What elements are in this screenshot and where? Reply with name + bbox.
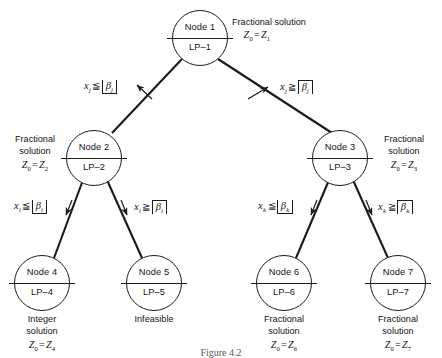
annotation-node-3-objective: Z0=Z3 [374, 158, 434, 174]
node-2-lp: LP–2 [67, 163, 121, 173]
annotation-node-6-line2: solution [254, 325, 314, 337]
floor-bracket: βk [277, 200, 293, 214]
z-rhs-subscript: 2 [45, 165, 49, 172]
node-6[interactable]: Node 6 LP–6 [256, 255, 312, 311]
edge-arrowhead-node3-node6 [311, 200, 317, 215]
beta-subscript: k [406, 207, 409, 214]
edge-label-node1-node3: xj≧βj [280, 80, 313, 94]
edge-node2-node5 [107, 180, 142, 258]
node-6-divider [251, 283, 317, 284]
annotation-node-1-objective: Z0=Z1 [232, 28, 306, 44]
floor-bracket: βj [102, 80, 117, 94]
beta-subscript: j [111, 86, 113, 93]
ceil-bracket: βi [152, 200, 167, 214]
node-3-divider [307, 158, 373, 159]
node-5-divider [121, 283, 187, 284]
annotation-node-5-line1: Infeasible [124, 313, 184, 325]
annotation-node-2-line2: solution [6, 145, 64, 157]
node-6-title: Node 6 [257, 268, 311, 278]
node-4[interactable]: Node 4 LP–4 [14, 255, 70, 311]
node-5[interactable]: Node 5 LP–5 [126, 255, 182, 311]
annotation-node-1-line1: Fractional solution [232, 16, 306, 28]
edge-label-node3-node7: xk≧βk [378, 200, 413, 214]
ceil-bracket: βk [397, 200, 413, 214]
node-3[interactable]: Node 3 LP–3 [312, 130, 368, 186]
node-2[interactable]: Node 2 LP–2 [66, 130, 122, 186]
annotation-node-7-line2: solution [368, 325, 428, 337]
annotation-node-3-line2: solution [374, 145, 434, 157]
annotation-node-7-line1: Fractional [368, 313, 428, 325]
node-7[interactable]: Node 7 LP–7 [370, 255, 426, 311]
node-7-lp: LP–7 [371, 288, 425, 298]
node-3-title: Node 3 [313, 143, 367, 153]
beta-subscript: i [161, 207, 163, 214]
beta-subscript: k [286, 206, 289, 213]
edge-label-node2-node5: xi≧βi [134, 200, 167, 214]
node-3-lp: LP–3 [313, 163, 367, 173]
relation-symbol: ≦ [266, 200, 277, 211]
node-2-title: Node 2 [67, 143, 121, 153]
annotation-node-4-line1: Integer [12, 313, 72, 325]
edge-node2-node4 [54, 180, 83, 258]
relation-symbol: ≦ [91, 80, 102, 91]
beta-subscript: i [41, 206, 43, 213]
node-4-lp: LP–4 [15, 288, 69, 298]
annotation-node-2-objective: Z0=Z2 [6, 158, 64, 174]
relation-symbol: ≦ [21, 200, 32, 211]
node-4-divider [9, 283, 75, 284]
relation-symbol: ≧ [141, 201, 152, 212]
annotation-node-6-line1: Fractional [254, 313, 314, 325]
edge-arrowhead-node2-node5 [121, 200, 127, 215]
edge-label-node1-node2: xj≦βj [84, 80, 117, 94]
node-4-title: Node 4 [15, 268, 69, 278]
edge-node1-node2 [112, 59, 182, 133]
relation-symbol: ≧ [287, 81, 298, 92]
annotation-node-2: Fractional solution Z0=Z2 [6, 133, 64, 173]
node-6-lp: LP–6 [257, 288, 311, 298]
figure-caption: Figure 4.2 [0, 347, 442, 358]
node-7-divider [365, 283, 431, 284]
floor-bracket: βi [32, 200, 47, 214]
z-rhs-subscript: 3 [414, 165, 418, 172]
z-rhs-subscript: 1 [267, 35, 271, 42]
edge-node3-node6 [296, 180, 329, 258]
edge-label-node2-node4: xi≦βi [14, 200, 47, 214]
node-2-divider [61, 158, 127, 159]
annotation-node-4-line2: solution [12, 325, 72, 337]
node-7-title: Node 7 [371, 268, 425, 278]
annotation-node-2-line1: Fractional [6, 133, 64, 145]
node-1-divider [167, 38, 233, 39]
annotation-node-1: Fractional solution Z0=Z1 [232, 16, 306, 44]
edge-arrowhead-node3-node7 [366, 200, 372, 215]
node-1[interactable]: Node 1 LP–1 [172, 10, 228, 66]
node-5-title: Node 5 [127, 268, 181, 278]
annotation-node-3: Fractional solution Z0=Z3 [374, 133, 434, 173]
edge-arrowhead-node1-node3 [248, 87, 268, 99]
node-5-lp: LP–5 [127, 288, 181, 298]
ceil-bracket: βj [298, 80, 313, 94]
node-1-title: Node 1 [173, 23, 227, 33]
edge-label-node3-node6: xk≦βk [258, 200, 293, 214]
edge-node3-node7 [353, 180, 388, 258]
edge-arrowhead-node2-node4 [66, 200, 72, 215]
annotation-node-3-line1: Fractional [374, 133, 434, 145]
edge-arrowhead-node1-node2 [137, 85, 152, 99]
node-1-lp: LP–1 [173, 43, 227, 53]
beta-subscript: j [307, 87, 309, 94]
edge-node1-node3 [218, 59, 332, 133]
relation-symbol: ≧ [386, 201, 397, 212]
annotation-node-5: Infeasible [124, 313, 184, 325]
